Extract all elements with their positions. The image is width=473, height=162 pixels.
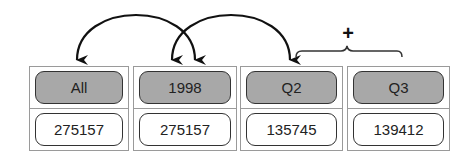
value-cell-1998: 275157 [139,113,231,146]
value-cell-q2: 135745 [246,113,337,146]
divider [134,108,236,109]
value-label: 135745 [266,121,316,138]
header-cell-q2: Q2 [246,71,337,104]
bracket-q2-q3 [296,46,402,57]
header-label: Q3 [388,79,408,96]
header-cell-all: All [35,71,123,104]
divider [241,108,342,109]
value-cell-all: 275157 [35,113,123,146]
column-1998: 1998 275157 [133,66,237,151]
divider [30,108,128,109]
header-label: All [71,79,88,96]
arrow-1998-to-all [77,15,195,60]
value-label: 275157 [54,121,104,138]
value-label: 275157 [160,121,210,138]
column-q2: Q2 135745 [240,66,343,151]
header-label: 1998 [168,79,201,96]
divider [348,108,449,109]
column-q3: Q3 139412 [347,66,450,151]
value-label: 139412 [373,121,423,138]
column-all: All 275157 [29,66,129,151]
arrow-q2-to-1998 [172,15,290,60]
plus-operator: + [339,22,357,45]
value-cell-q3: 139412 [353,113,444,146]
header-label: Q2 [281,79,301,96]
header-cell-q3: Q3 [353,71,444,104]
header-cell-1998: 1998 [139,71,231,104]
